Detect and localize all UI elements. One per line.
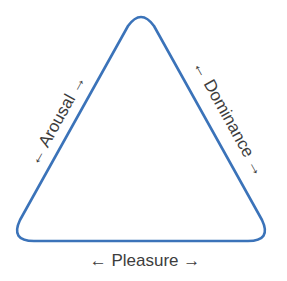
pad-triangle-diagram: ← Arousal → ← Dominance → ← Pleasure → — [0, 0, 287, 281]
pleasure-label: ← Pleasure → — [90, 251, 201, 270]
